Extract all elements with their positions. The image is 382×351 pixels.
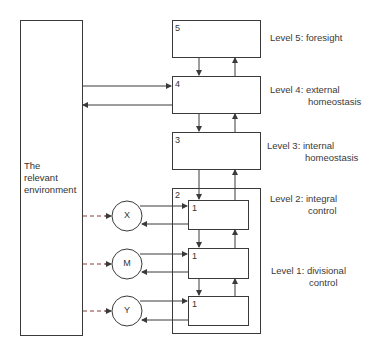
level-2-label-line1: Level 2: integral	[270, 193, 337, 205]
box-1a-number: 1	[192, 203, 197, 213]
level-1-box-b	[189, 249, 249, 279]
level-2-label: Level 2: integral control	[270, 193, 337, 217]
level-2-label-line2: control	[270, 205, 337, 217]
level-1-label-line1: Level 1: divisional	[271, 265, 346, 277]
environment-label-line1: The	[24, 160, 76, 172]
level-1-box-a	[189, 201, 249, 230]
level-5-label-line1: Level 5: foresight	[270, 32, 342, 44]
level-5-label: Level 5: foresight	[270, 32, 342, 44]
level-1-label: Level 1: divisional control	[271, 265, 346, 289]
circle-m-label: M	[112, 258, 142, 268]
level-4-label: Level 4: external homeostasis	[270, 84, 361, 108]
level-3-box	[173, 133, 261, 170]
level-3-label-line1: Level 3: internal	[267, 140, 358, 152]
level-4-label-line1: Level 4: external	[270, 84, 361, 96]
circle-y-label: Y	[112, 305, 142, 315]
box-4-number: 4	[175, 79, 180, 89]
box-1b-number: 1	[192, 251, 197, 261]
box-1c-number: 1	[192, 299, 197, 309]
box-3-number: 3	[175, 135, 180, 145]
environment-label-line3: environment	[24, 184, 76, 196]
box-2-number: 2	[175, 190, 180, 200]
circle-x-label: X	[112, 210, 142, 220]
level-2-box	[173, 189, 261, 334]
level-5-box	[173, 21, 261, 58]
level-4-label-line2: homeostasis	[270, 96, 361, 108]
box-5-number: 5	[175, 23, 180, 33]
environment-label-line2: relevant	[24, 172, 76, 184]
level-3-label-line2: homeostasis	[267, 152, 358, 164]
level-4-box	[173, 77, 261, 114]
level-1-box-c	[189, 297, 249, 326]
level-3-label: Level 3: internal homeostasis	[267, 140, 358, 164]
level-1-label-line2: control	[271, 277, 346, 289]
environment-label: The relevant environment	[24, 160, 76, 196]
